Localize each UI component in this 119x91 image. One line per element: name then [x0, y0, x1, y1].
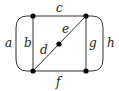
- label-a: a: [5, 36, 12, 50]
- label-e: e: [62, 22, 69, 36]
- vertex-top-right: [83, 13, 88, 18]
- vertex-bottom-left: [30, 68, 35, 73]
- label-d: d: [40, 43, 48, 57]
- label-g: g: [89, 36, 97, 50]
- label-b: b: [24, 36, 32, 50]
- vertex-bottom-right: [83, 68, 88, 73]
- label-c: c: [56, 1, 63, 15]
- label-f: f: [55, 75, 63, 89]
- graph-diagram: a b c d e f g h: [0, 0, 119, 91]
- label-h: h: [107, 36, 115, 50]
- vertex-top-left: [30, 13, 35, 18]
- vertex-center: [56, 41, 61, 46]
